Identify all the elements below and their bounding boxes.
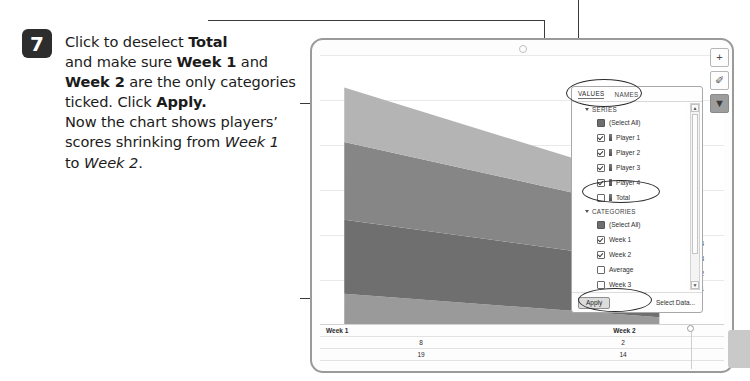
checkbox-icon[interactable]	[597, 281, 605, 289]
filter-option-label: Week 2	[609, 251, 631, 258]
chart-tool-buttons: + ✐ ▼	[710, 48, 727, 117]
series-color-swatch-icon	[609, 149, 612, 156]
highlight-ellipse-total-row	[582, 180, 660, 203]
checkbox-icon[interactable]	[597, 221, 605, 229]
instruction-line: Now the chart shows players’	[65, 112, 300, 132]
table-resize-handle[interactable]	[687, 325, 694, 332]
filter-option-row[interactable]: Player 2	[575, 145, 685, 160]
filter-option-label: Average	[609, 266, 633, 273]
filter-option-row[interactable]: (Select All)	[575, 115, 685, 130]
column-header: Week 2	[525, 327, 724, 334]
panel-scrollbar[interactable]: ▲ ▼	[690, 103, 700, 290]
series-color-swatch-icon	[609, 134, 612, 141]
instruction-line: scores shrinking from Week 1	[65, 132, 300, 152]
table-cell: 14	[522, 351, 724, 358]
filter-option-row[interactable]: Average	[575, 262, 685, 277]
highlight-ellipse-apply-button	[578, 288, 652, 312]
chevron-down-icon	[585, 210, 589, 213]
page-edge-artifact	[728, 330, 750, 368]
filter-option-label: Player 3	[616, 164, 640, 171]
scroll-up-icon[interactable]: ▲	[691, 104, 699, 112]
table-cell: 19	[320, 351, 522, 358]
chart-filters-funnel-icon[interactable]: ▼	[710, 94, 729, 113]
instruction-line: to Week 2.	[65, 153, 300, 173]
table-divider	[691, 327, 692, 369]
filter-option-label: (Select All)	[609, 221, 641, 228]
checkbox-icon[interactable]	[597, 251, 605, 259]
checkbox-icon[interactable]	[597, 149, 605, 157]
highlight-ellipse-values-tab	[566, 79, 642, 107]
select-data-link[interactable]: Select Data...	[656, 299, 695, 306]
filter-option-label: Week 3	[609, 281, 631, 288]
filter-option-label: Week 1	[609, 236, 631, 243]
table-row: 19 14	[320, 349, 724, 361]
chart-elements-plus-icon[interactable]: +	[710, 48, 729, 67]
checkbox-icon[interactable]	[597, 236, 605, 244]
filter-option-row[interactable]: Player 3	[575, 160, 685, 175]
filter-option-row[interactable]: (Select All)	[575, 217, 685, 232]
filter-option-label: Player 1	[616, 134, 640, 141]
table-cell: 8	[320, 339, 522, 346]
filter-option-row[interactable]: Week 2	[575, 247, 685, 262]
table-cell: 2	[522, 339, 724, 346]
chart-data-table: Week 1 Week 2 8 2 19 14	[320, 325, 724, 369]
checkbox-icon[interactable]	[597, 266, 605, 274]
filter-option-label: (Select All)	[609, 119, 641, 126]
filter-option-row[interactable]: Player 1	[575, 130, 685, 145]
checkbox-icon[interactable]	[597, 119, 605, 127]
column-header: Week 1	[320, 327, 525, 334]
table-row: 8 2	[320, 337, 724, 349]
checkbox-icon[interactable]	[597, 164, 605, 172]
scrollbar-thumb[interactable]	[692, 114, 698, 254]
checkbox-icon[interactable]	[597, 134, 605, 142]
window-handle[interactable]	[519, 45, 527, 53]
option-group-label: CATEGORIES	[592, 208, 636, 215]
scroll-down-icon[interactable]: ▼	[691, 281, 699, 289]
step-number-badge: 7	[22, 29, 52, 58]
table-header-row: Week 1 Week 2	[320, 325, 724, 337]
option-group-header[interactable]: CATEGORIES	[575, 205, 685, 217]
chevron-down-icon	[585, 108, 589, 111]
filter-option-row[interactable]: Week 1	[575, 232, 685, 247]
chart-styles-brush-icon[interactable]: ✐	[710, 71, 729, 90]
series-color-swatch-icon	[609, 164, 612, 171]
filter-option-label: Player 2	[616, 149, 640, 156]
